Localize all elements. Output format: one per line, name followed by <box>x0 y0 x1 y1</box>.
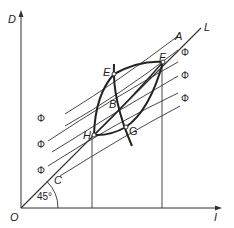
point-e-label: E <box>103 67 110 78</box>
line-l-label: L <box>204 22 210 33</box>
phi-label-left: Φ <box>37 114 45 124</box>
phi-label-right: Φ <box>181 48 189 58</box>
phi-label-right: Φ <box>181 71 189 81</box>
point-h-marker <box>92 133 96 137</box>
phi-label-left: Φ <box>37 140 45 150</box>
diagram-canvas <box>0 0 234 228</box>
point-g-marker <box>124 125 128 129</box>
point-h-label: H <box>83 130 91 141</box>
angle-label: 45° <box>37 192 52 202</box>
point-c-label: C <box>54 175 62 186</box>
point-a-label: A <box>175 31 182 42</box>
point-b-label: B <box>109 99 116 110</box>
phi-label-right: Φ <box>181 94 189 104</box>
y-axis-label: D <box>8 14 16 25</box>
phi-curve <box>65 36 178 114</box>
x-axis-label: I <box>214 212 217 223</box>
origin-label: O <box>10 212 19 223</box>
phi-label-left: Φ <box>37 166 45 176</box>
diagram: D I O L 45° A B C E F G H Φ Φ Φ Φ Φ Φ <box>0 0 234 228</box>
y-axis-arrow-icon <box>19 10 24 17</box>
point-g-label: G <box>129 126 138 137</box>
x-axis-arrow-icon <box>215 206 222 211</box>
point-e-marker <box>112 72 116 76</box>
point-f-label: F <box>159 52 166 63</box>
